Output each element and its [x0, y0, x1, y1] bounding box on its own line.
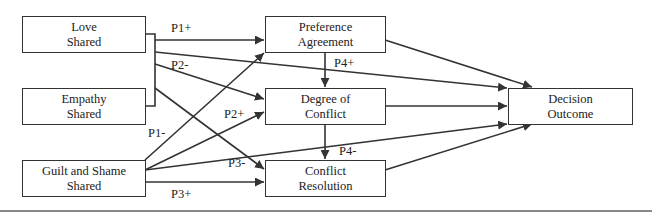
node-preference-agreement: Preference Agreement — [265, 16, 386, 53]
node-decision-outcome: Decision Outcome — [508, 88, 633, 125]
node-label-line2: Shared — [67, 107, 102, 122]
node-empathy-shared: Empathy Shared — [22, 88, 146, 125]
node-label-line2: Outcome — [548, 107, 594, 122]
node-label-line1: Conflict — [305, 164, 346, 179]
edge-label-p2-plus: P2+ — [224, 108, 244, 121]
node-label-line1: Empathy — [61, 92, 106, 107]
node-conflict-resolution: Conflict Resolution — [265, 160, 386, 197]
node-label-line2: Agreement — [298, 35, 354, 50]
node-degree-of-conflict: Degree of Conflict — [265, 88, 386, 125]
bottom-divider — [0, 210, 652, 212]
bracket-love-empathy — [145, 34, 155, 106]
edge-preference-to-outcome — [385, 40, 532, 87]
edge-label-p3-minus: P3- — [228, 157, 245, 170]
node-guilt-shame-shared: Guilt and Shame Shared — [22, 160, 146, 197]
edge-label-p4-plus: P4+ — [334, 57, 354, 70]
node-label-line2: Shared — [67, 35, 102, 50]
edge-guilt-to-degree — [145, 112, 264, 170]
research-model-diagram: Love Shared Empathy Shared Guilt and Sha… — [0, 0, 652, 218]
node-label-line2: Conflict — [305, 107, 346, 122]
edge-guilt-to-preference — [145, 53, 264, 160]
node-label-line1: Preference — [299, 20, 352, 35]
node-label-line1: Love — [71, 20, 97, 35]
node-label-line1: Guilt and Shame — [42, 164, 126, 179]
edge-label-p1-minus: P1- — [148, 127, 165, 140]
edge-label-p4-minus: P4- — [339, 145, 356, 158]
node-label-line2: Resolution — [298, 179, 352, 194]
edge-label-p3-plus: P3+ — [171, 188, 191, 201]
edge-shared-to-outcome — [155, 52, 507, 88]
node-love-shared: Love Shared — [22, 16, 146, 53]
node-label-line1: Degree of — [301, 92, 351, 107]
edge-label-p1-plus: P1+ — [171, 22, 191, 35]
node-label-line2: Shared — [67, 179, 102, 194]
node-label-line1: Decision — [548, 92, 592, 107]
edge-label-p2-minus: P2- — [171, 59, 188, 72]
